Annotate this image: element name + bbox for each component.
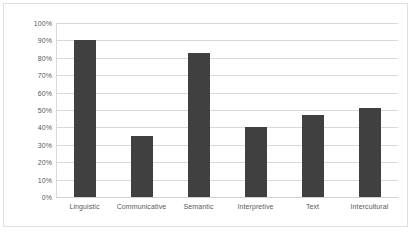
y-tick-label: 70% <box>38 72 52 79</box>
y-tick-label: 40% <box>38 124 52 131</box>
chart-frame: 100%90%80%70%60%50%40%30%20%10%0% Lingui… <box>3 3 408 227</box>
bar-slot <box>227 23 284 197</box>
x-tick-label: Interpretive <box>227 203 284 210</box>
y-tick-label: 80% <box>38 54 52 61</box>
x-tick-label: Intercultural <box>341 203 398 210</box>
bar[interactable] <box>131 136 153 197</box>
y-tick-label: 10% <box>38 176 52 183</box>
bar[interactable] <box>302 115 324 197</box>
gridline-0 <box>56 197 398 198</box>
x-tick-label: Semantic <box>170 203 227 210</box>
bar[interactable] <box>359 108 381 197</box>
y-axis-tick-labels: 100%90%80%70%60%50%40%30%20%10%0% <box>4 23 52 197</box>
bar-slot <box>284 23 341 197</box>
bar[interactable] <box>188 53 210 197</box>
y-tick-label: 100% <box>34 20 52 27</box>
bar-slot <box>56 23 113 197</box>
bar-slot <box>113 23 170 197</box>
y-tick-label: 90% <box>38 37 52 44</box>
y-tick-label: 20% <box>38 159 52 166</box>
bar[interactable] <box>245 127 267 197</box>
x-tick-label: Linguistic <box>56 203 113 210</box>
x-tick-label: Communicative <box>113 203 170 210</box>
x-axis-tick-labels: LinguisticCommunicativeSemanticInterpret… <box>56 203 398 219</box>
bar-slot <box>341 23 398 197</box>
bar-slot <box>170 23 227 197</box>
y-tick-label: 30% <box>38 141 52 148</box>
bar[interactable] <box>74 40 96 197</box>
x-tick-label: Text <box>284 203 341 210</box>
y-tick-label: 60% <box>38 89 52 96</box>
y-tick-label: 0% <box>42 194 52 201</box>
y-tick-label: 50% <box>38 107 52 114</box>
plot-area <box>56 23 398 197</box>
